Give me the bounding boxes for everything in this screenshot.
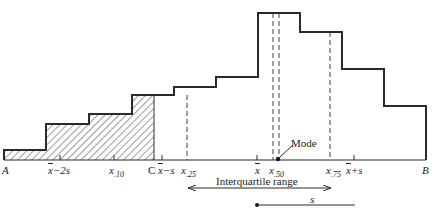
- label-mode: Mode: [291, 138, 317, 149]
- mode-point: [276, 157, 280, 161]
- label-x10: x.10: [109, 165, 124, 176]
- quantile-subscript: .25: [186, 170, 196, 179]
- label-mean-minus-s: x−s: [158, 165, 175, 176]
- label-mean-minus-2s: x−2s: [48, 165, 70, 176]
- label-x75: x.75: [326, 165, 341, 176]
- label-x25: x.25: [181, 165, 196, 176]
- label-a: A: [2, 165, 9, 176]
- label-suffix: +s: [351, 164, 363, 176]
- label-b: B: [422, 165, 429, 176]
- quantile-subscript: .75: [331, 170, 341, 179]
- label-c: C: [148, 165, 155, 176]
- quantile-subscript: .10: [114, 170, 124, 179]
- label-interquartile-range: Interquartile range: [216, 176, 298, 187]
- label-suffix: −s: [163, 164, 175, 176]
- s-segment-start-dot: [255, 203, 259, 207]
- label-mean-plus-s: x+s: [346, 165, 363, 176]
- label-suffix: −2s: [53, 164, 70, 176]
- label-s: s: [310, 194, 314, 205]
